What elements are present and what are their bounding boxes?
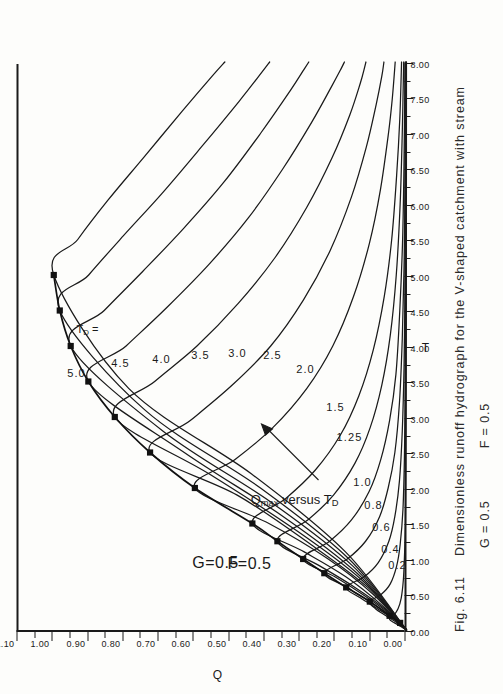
y-tick — [404, 632, 405, 641]
qmax-versus: versus T — [278, 492, 331, 507]
curve-label-0.8: 0.8 — [364, 499, 383, 511]
x-tick-label: 1.00 — [410, 557, 429, 567]
envelope-marker — [249, 520, 255, 526]
curve-label-0.2: 0.2 — [388, 559, 407, 571]
caption-main-text: Dimensionless runoff hydrograph for the … — [452, 86, 466, 556]
envelope-marker — [191, 485, 197, 491]
x-tick-minor — [404, 81, 410, 82]
param-f-text: F=0.5 — [227, 555, 271, 573]
x-tick-minor — [404, 152, 410, 153]
y-tick-minor — [210, 632, 211, 638]
caption-line-1: Fig. 6.11Dimensionless runoff hydrograph… — [452, 32, 466, 632]
y-tick — [122, 632, 123, 641]
x-tick-minor — [404, 329, 410, 330]
x-tick-label: 8.00 — [410, 60, 429, 70]
y-tick — [228, 632, 229, 641]
y-tick — [157, 632, 158, 641]
x-tick-label: 2.00 — [410, 486, 429, 496]
caption-param-g: G = 0.5 — [477, 500, 491, 548]
y-tick-label: 1.10 — [0, 639, 14, 649]
x-tick-minor — [404, 507, 410, 508]
qmax-td-sub: D — [331, 498, 338, 508]
envelope-marker — [321, 570, 327, 576]
envelope-marker — [50, 272, 56, 278]
curve-label-2.5: 2.5 — [263, 349, 282, 361]
curve-label-3.0: 3.0 — [228, 347, 247, 359]
figure-caption: Fig. 6.11Dimensionless runoff hydrograph… — [452, 32, 491, 632]
curve-label-2.0: 2.0 — [296, 363, 315, 375]
y-tick-minor — [281, 632, 282, 638]
y-tick — [16, 632, 17, 641]
y-tick-minor — [245, 632, 246, 638]
annotation-arrow — [261, 424, 318, 480]
y-tick-minor — [351, 632, 352, 638]
figure-page: 5.04.54.03.53.02.52.01.51.251.00.80.60.4… — [0, 0, 503, 694]
envelope-marker — [366, 599, 372, 605]
curve-td-2.5 — [148, 62, 406, 630]
envelope-marker — [386, 613, 392, 619]
curve-label-4.5: 4.5 — [111, 357, 130, 369]
y-tick-minor — [175, 632, 176, 638]
x-tick-label: 4.50 — [410, 309, 429, 319]
x-tick-minor — [404, 578, 410, 579]
caption-param-f: F = 0.5 — [477, 403, 491, 449]
x-tick-minor — [404, 471, 410, 472]
qmax-q: Q — [250, 492, 260, 507]
x-tick-label: 5.00 — [410, 273, 429, 283]
envelope-marker — [111, 414, 117, 420]
y-tick-minor — [316, 632, 317, 638]
x-tick-minor — [404, 187, 410, 188]
y-tick-minor — [34, 632, 35, 638]
x-tick-label: 0.50 — [410, 593, 429, 603]
rotated-figure-wrapper: 5.04.54.03.53.02.52.01.51.251.00.80.60.4… — [0, 0, 503, 694]
envelope-marker — [146, 449, 152, 455]
x-tick-minor — [404, 223, 410, 224]
plot-frame: 5.04.54.03.53.02.52.01.51.251.00.80.60.4… — [16, 64, 404, 632]
y-tick-minor — [139, 632, 140, 638]
x-tick-minor — [404, 542, 410, 543]
envelope-marker — [343, 584, 349, 590]
y-tick — [369, 632, 370, 641]
td-legend: TD = — [76, 323, 98, 337]
y-tick — [51, 632, 52, 641]
qmax-sub: max — [260, 498, 278, 508]
curve-label-1.25: 1.25 — [336, 431, 362, 443]
x-tick-label: 5.50 — [410, 238, 429, 248]
y-tick — [298, 632, 299, 641]
envelope-marker — [67, 343, 73, 349]
y-tick — [87, 632, 88, 641]
td-legend-eq: = — [88, 323, 97, 335]
x-tick-label: 6.00 — [410, 202, 429, 212]
y-tick — [333, 632, 334, 641]
y-tick-minor — [386, 632, 387, 638]
envelope-marker — [300, 556, 306, 562]
y-tick-minor — [69, 632, 70, 638]
curve-label-0.6: 0.6 — [372, 521, 391, 533]
curve-label-3.5: 3.5 — [191, 349, 210, 361]
curve-label-1.0: 1.0 — [353, 476, 372, 488]
y-tick — [263, 632, 264, 641]
x-tick-minor — [404, 365, 410, 366]
x-tick-label: 7.50 — [410, 96, 429, 106]
x-tick-minor — [404, 436, 410, 437]
envelope-marker — [274, 538, 280, 544]
envelope-marker — [85, 378, 91, 384]
figure-number: Fig. 6.11 — [452, 556, 466, 632]
td-legend-t: T — [76, 323, 83, 335]
envelope-marker — [56, 307, 62, 313]
x-tick-minor — [404, 400, 410, 401]
x-tick-minor — [404, 294, 410, 295]
caption-line-2: G = 0.5F = 0.5 — [477, 32, 491, 632]
y-tick-minor — [104, 632, 105, 638]
x-tick-label: 1.50 — [410, 522, 429, 532]
x-tick-label: 0.00 — [410, 628, 429, 638]
x-tick-minor — [404, 258, 410, 259]
x-tick-label: 3.00 — [410, 415, 429, 425]
qmax-annotation: Qmax versus TD — [250, 492, 338, 508]
y-axis-title: Q — [212, 668, 221, 682]
envelope-marker — [397, 620, 403, 626]
x-axis-title: T — [421, 341, 428, 355]
x-tick-label: 3.50 — [410, 380, 429, 390]
hydrograph-curves — [18, 62, 406, 630]
x-tick-label: 6.50 — [410, 167, 429, 177]
